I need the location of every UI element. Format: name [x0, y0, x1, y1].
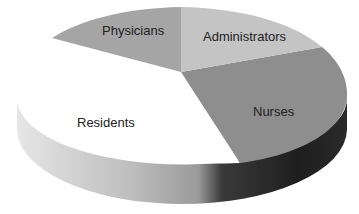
label-nurses: Nurses	[253, 104, 295, 119]
label-administrators: Administrators	[203, 29, 287, 44]
pie-chart-3d: Physicians Administrators Nurses Residen…	[0, 0, 359, 214]
label-residents: Residents	[77, 115, 135, 130]
label-physicians: Physicians	[102, 23, 165, 38]
